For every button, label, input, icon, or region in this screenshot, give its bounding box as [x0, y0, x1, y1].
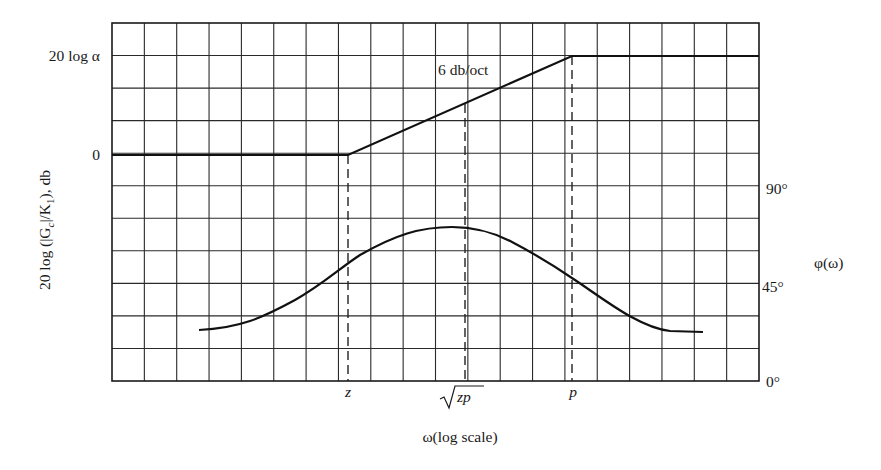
svg-text:zp: zp	[456, 388, 471, 405]
right-tick-0: 0°	[766, 373, 780, 390]
left-axis-label: 20 log (|Gc|/K1), db	[36, 170, 56, 290]
right-tick-90: 90°	[766, 180, 788, 197]
plot-grid	[112, 23, 759, 381]
phase-axis-label: φ(ω)	[814, 254, 843, 272]
left-tick-zero: 0	[92, 146, 100, 163]
x-tick-sqrt-zp: zp	[440, 386, 484, 408]
right-tick-45: 45°	[762, 278, 784, 295]
left-tick-20-log-alpha: 20 log α	[49, 47, 100, 64]
x-tick-z: z	[344, 383, 351, 400]
x-tick-p: p	[568, 383, 577, 400]
bode-plot: 20 log α 0 20 log (|Gc|/K1), db 6 db/oct…	[0, 0, 881, 470]
x-axis-label: ω(log scale)	[422, 428, 497, 446]
slope-annotation: 6 db/oct	[438, 61, 489, 78]
